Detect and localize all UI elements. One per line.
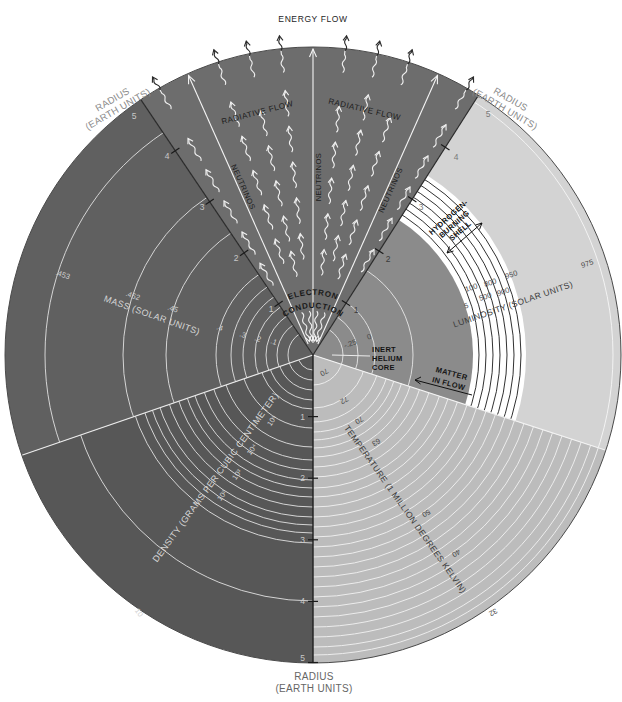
radius-label-line1: RADIUS — [294, 671, 334, 682]
core-label-line3: CORE — [372, 363, 395, 372]
radius-tick-label: 5 — [132, 111, 137, 121]
radius-tick-label: 4 — [454, 152, 459, 162]
stellar-structure-diagram: ENERGY FLOW RADIUS (EARTH UNITS) RADIUS … — [0, 0, 622, 702]
radius-tick-label: 4 — [165, 151, 170, 161]
radius-tick-label: 5 — [300, 653, 305, 663]
radius-tick-label: 3 — [300, 535, 305, 545]
energy-flow-title: ENERGY FLOW — [278, 14, 347, 24]
radius-tick-label: 1 — [269, 304, 274, 314]
radius-tick-label: 4 — [300, 596, 305, 606]
neutrinos-label-center: NEUTRINOS — [314, 153, 323, 202]
radius-tick-label: 2 — [300, 473, 305, 483]
radius-label-bottom: RADIUS (EARTH UNITS) — [275, 671, 352, 694]
core-label-line2: HELIUM — [372, 354, 403, 363]
core-label-line1: INERT — [372, 345, 396, 354]
radius-tick-label: 5 — [486, 109, 491, 119]
radius-tick-label: 3 — [200, 202, 205, 212]
radius-tick-label: 1 — [300, 412, 305, 422]
radius-label-line2: (EARTH UNITS) — [275, 683, 352, 694]
radius-tick-label: 2 — [234, 253, 239, 263]
radius-tick-label: 2 — [386, 254, 391, 264]
radius-tick-label: 3 — [419, 202, 424, 212]
radius-tick-label: 1 — [354, 305, 359, 315]
